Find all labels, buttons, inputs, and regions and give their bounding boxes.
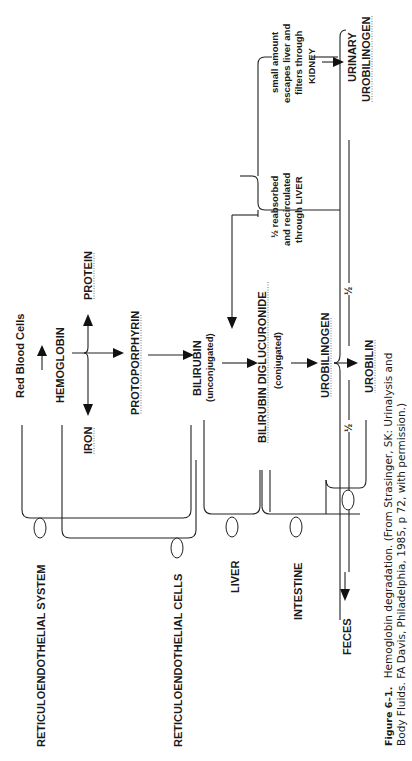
node-urinary-line1: URINARY (346, 32, 358, 82)
svg-text:½ reabsorbed: ½ reabsorbed (269, 176, 280, 238)
arrow-protoporphyrin-to-bilirubin (148, 350, 194, 360)
node-bilirubin-diglucuronide-note: (conjugated) (272, 332, 283, 389)
figure-caption: Figure 6–1. Hemoglobin degradation. (Fro… (382, 353, 407, 746)
caption-line1: Hemoglobin degradation. (From Strasinger… (382, 353, 394, 679)
region-intestine: INTESTINE (292, 563, 304, 620)
svg-text:small amount: small amount (269, 31, 280, 93)
arrow-bilirubin-to-diglucuronide (222, 358, 258, 368)
svg-text:escapes liver and: escapes liver and (281, 24, 292, 103)
bracket-liver (204, 420, 260, 537)
node-bilirubin-diglucuronide: BILIRUBIN DIGLUCURONIDE (256, 291, 268, 443)
bracket-intestine (262, 420, 366, 537)
node-protein: PROTEIN (82, 251, 94, 300)
region-reticuloendothelial-system: RETICULOENDOTHELIAL SYSTEM (35, 564, 47, 747)
arrow-to-feces (340, 572, 350, 601)
reabsorbed-note: ½ reabsorbed and recirculated through LI… (269, 172, 304, 246)
arrow-kidney-to-urinary (322, 57, 344, 67)
svg-text:Figure 6–1. Hemoglobin d: Figure 6–1. Hemoglobin degradation. (Fro… (382, 353, 394, 746)
region-reticuloendothelial-cells: RETICULOENDOTHELIAL CELLS (172, 574, 184, 747)
node-protoporphyrin: PROTOPORPHYRIN (129, 311, 141, 415)
half-right-label: ½ (343, 287, 354, 295)
node-urobilinogen: UROBILINOGEN (319, 312, 331, 398)
region-liver: LIVER (229, 561, 241, 593)
arrow-diglucuronide-to-urobilinogen (291, 358, 318, 368)
node-hemoglobin: HEMOGLOBIN (54, 327, 66, 403)
half-left-label: ½ (343, 424, 354, 432)
svg-text:filters through: filters through (293, 30, 304, 95)
hemoglobin-degradation-diagram: Red Blood Cells HEMOGLOBIN PROTEIN IRON … (0, 0, 412, 761)
caption-label: Figure 6–1. (383, 687, 394, 746)
svg-text:and recirculated: and recirculated (281, 172, 292, 246)
node-iron: IRON (82, 426, 94, 454)
caption-line2: Body Fluids. FA Davis, Philadelphia, 198… (395, 403, 407, 746)
node-red-blood-cells: Red Blood Cells (14, 314, 26, 398)
kidney-escape-note: small amount escapes liver and filters t… (269, 24, 317, 103)
node-urinary-line2: UROBILINOGEN (360, 16, 372, 102)
hemoglobin-branch (72, 314, 124, 416)
node-urobilin: UROBILIN (363, 340, 375, 393)
node-bilirubin-note: (unconjugated) (204, 333, 215, 402)
svg-text:through LIVER: through LIVER (293, 176, 304, 243)
bracket-reticuloendothelial-system (22, 425, 191, 538)
urobilinogen-split (334, 30, 358, 620)
arrow-rbc-to-hemoglobin (37, 345, 47, 370)
node-feces: FECES (341, 618, 353, 655)
node-bilirubin: BILIRUBIN (191, 340, 203, 396)
svg-text:KIDNEY: KIDNEY (306, 47, 317, 84)
